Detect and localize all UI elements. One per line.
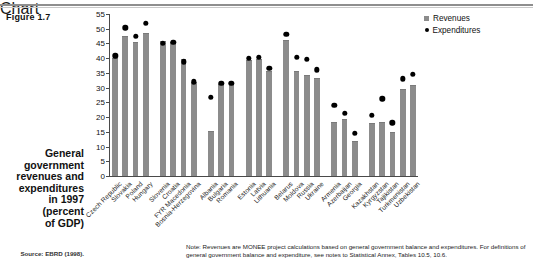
- y-axis-tick-label: 40: [87, 54, 105, 63]
- y-axis-tick-label: 30: [87, 83, 105, 92]
- dot-expenditures: [379, 96, 384, 101]
- figure-source: Source: EBRD (1998).: [0, 250, 84, 257]
- bar-revenues: [283, 40, 289, 176]
- y-axis-ticks: 0510152025303540455055: [88, 14, 109, 176]
- bar-revenues: [170, 42, 176, 176]
- bar-revenues: [369, 123, 375, 176]
- top-rule-secondary: [0, 7, 533, 8]
- bar-revenues: [390, 132, 396, 176]
- bar-revenues: [331, 122, 337, 176]
- dot-expenditures: [208, 95, 213, 100]
- bar-revenues: [246, 60, 252, 176]
- y-axis-tick-label: 20: [87, 113, 105, 122]
- bar-revenues: [208, 131, 214, 176]
- bar-revenues: [229, 84, 235, 176]
- bar-revenues: [294, 71, 300, 176]
- bar-revenues: [256, 59, 262, 176]
- bar-revenues: [133, 42, 139, 176]
- caption-line: General: [0, 148, 84, 160]
- bar-revenues: [410, 85, 416, 176]
- legend-square-icon: [424, 16, 429, 21]
- dot-expenditures: [284, 31, 289, 36]
- plot-series-container: [110, 14, 418, 176]
- y-axis-tick-label: 25: [87, 98, 105, 107]
- bar-revenues: [112, 58, 118, 176]
- bar-revenues: [342, 119, 348, 176]
- figure-number: Figure 1.7: [6, 12, 51, 22]
- dot-expenditures: [294, 55, 299, 60]
- x-axis-line: [109, 176, 418, 177]
- top-rule: [0, 4, 533, 6]
- dot-expenditures: [332, 102, 337, 107]
- y-axis-tick-label: 35: [87, 68, 105, 77]
- legend-label: Expenditures: [433, 25, 481, 37]
- figure-caption: General government revenues and expendit…: [0, 148, 84, 229]
- bar-revenues: [181, 59, 187, 176]
- chart-area: 0510152025303540455055 Czech RepublicSlo…: [88, 10, 418, 188]
- figure-page: Figure 1.7 General government revenues a…: [0, 0, 533, 269]
- legend-item-revenues: Revenues: [424, 13, 480, 25]
- bar-revenues: [143, 33, 149, 176]
- dot-expenditures: [390, 120, 395, 125]
- y-axis-tick-label: 5: [87, 157, 105, 166]
- legend-item-expenditures: Expenditures: [424, 25, 480, 37]
- bar-revenues: [400, 89, 406, 176]
- bar-revenues: [160, 41, 166, 176]
- caption-line: (percent: [0, 206, 84, 218]
- bar-revenues: [191, 82, 197, 176]
- dot-expenditures: [133, 33, 138, 38]
- bar-revenues: [266, 71, 272, 176]
- dot-expenditures: [266, 65, 271, 70]
- bar-revenues: [379, 122, 385, 176]
- dot-expenditures: [410, 71, 415, 76]
- dot-expenditures: [314, 67, 319, 72]
- caption-line: of GDP): [0, 218, 84, 230]
- dot-expenditures: [400, 76, 405, 81]
- y-axis-tick-label: 55: [87, 10, 105, 19]
- legend-dot-icon: [425, 28, 429, 32]
- chart-legend: Revenues Expenditures: [424, 13, 480, 36]
- y-axis-tick-label: 10: [87, 142, 105, 151]
- bar-revenues: [304, 75, 310, 176]
- dot-expenditures: [352, 130, 357, 135]
- bar-revenues: [122, 36, 128, 176]
- dot-expenditures: [369, 112, 374, 117]
- y-axis-tick-label: 45: [87, 39, 105, 48]
- figure-note: Note: Revenues are MONEE project calcula…: [186, 243, 530, 258]
- dot-expenditures: [123, 25, 128, 30]
- dot-expenditures: [143, 20, 148, 25]
- bar-revenues: [314, 78, 320, 176]
- y-axis-tick-label: 0: [87, 172, 105, 181]
- legend-label: Revenues: [433, 13, 470, 25]
- y-axis-tick-label: 50: [87, 24, 105, 33]
- bar-revenues: [218, 84, 224, 176]
- dot-expenditures: [304, 56, 309, 61]
- dot-expenditures: [342, 110, 347, 115]
- bar-revenues: [352, 141, 358, 176]
- y-axis-tick-label: 15: [87, 127, 105, 136]
